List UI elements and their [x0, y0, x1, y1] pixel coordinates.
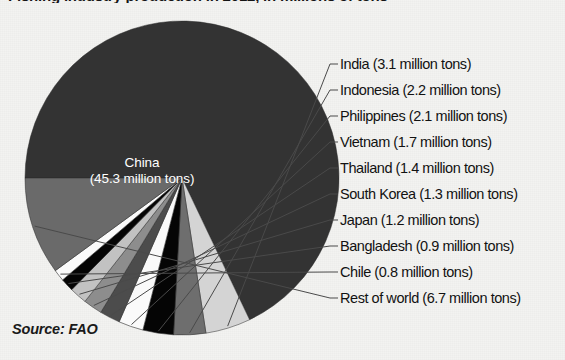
callout-label: Japan (1.2 million tons)	[340, 213, 479, 228]
china-label-name: China	[62, 155, 222, 171]
china-slice-label: China (45.3 million tons)	[62, 155, 222, 187]
source-note: Source: FAO	[12, 321, 98, 337]
callout-label: Vietnam (1.7 million tons)	[340, 135, 492, 150]
callout-label: Bangladesh (0.9 million tons)	[340, 239, 514, 254]
callout-label: Rest of world (6.7 million tons)	[340, 291, 521, 306]
pie-chart: China (45.3 million tons) India (3.1 mil…	[0, 0, 565, 360]
china-label-value: (45.3 million tons)	[62, 171, 222, 187]
callout-label: India (3.1 million tons)	[340, 57, 471, 72]
callout-label: South Korea (1.3 million tons)	[340, 187, 518, 202]
callout-label: Indonesia (2.2 million tons)	[340, 83, 501, 98]
callout-label: Thailand (1.4 million tons)	[340, 161, 494, 176]
callout-label: Philippines (2.1 million tons)	[340, 109, 507, 124]
callout-label: Chile (0.8 million tons)	[340, 265, 473, 280]
